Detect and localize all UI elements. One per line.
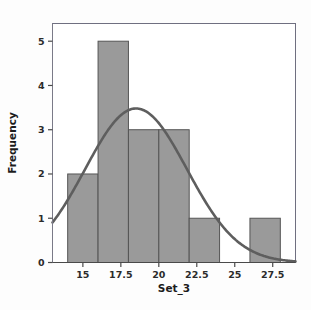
x-tick-label: 27.5 [261,269,284,280]
y-tick-label: 5 [38,36,45,47]
histogram-chart: 1517.52022.52527.5 012345 Set_3 Frequenc… [0,0,311,310]
x-tick-label: 17.5 [109,269,132,280]
y-tick-label: 4 [38,80,45,91]
x-tick-label: 15 [76,269,89,280]
y-tick-label: 2 [38,168,45,179]
y-axis-title: Frequency [6,112,18,174]
histogram-bar [159,130,189,263]
histogram-bar [98,41,128,262]
x-axis-title: Set_3 [158,282,190,295]
histogram-bar [189,218,219,262]
x-tick-label: 25 [228,269,241,280]
x-tick-label: 22.5 [185,269,208,280]
histogram-bar [128,130,158,263]
y-tick-label: 3 [38,124,45,135]
x-tick-label: 20 [152,269,166,280]
y-tick-label: 1 [38,213,45,224]
y-tick-label: 0 [38,257,45,268]
chart-canvas: 1517.52022.52527.5 012345 Set_3 Frequenc… [0,0,311,310]
histogram-bar [68,174,98,263]
